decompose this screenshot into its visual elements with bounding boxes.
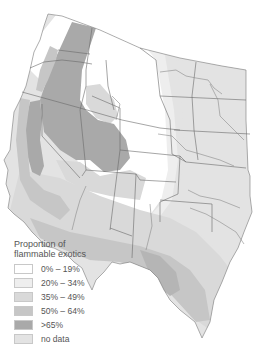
legend-swatch bbox=[14, 306, 33, 316]
legend-item-65-plus: >65% bbox=[14, 318, 114, 332]
legend-label: 50% – 64% bbox=[41, 306, 84, 316]
legend-swatch bbox=[14, 334, 33, 344]
legend-title-line2: flammable exotics bbox=[14, 249, 114, 259]
legend-label: no data bbox=[41, 334, 69, 344]
legend-swatch bbox=[14, 264, 33, 274]
legend-swatch bbox=[14, 292, 33, 302]
legend-item-35-49: 35% – 49% bbox=[14, 290, 114, 304]
legend-item-0-19: 0% – 19% bbox=[14, 262, 114, 276]
legend-item-no-data: no data bbox=[14, 332, 114, 346]
legend-label: 20% – 34% bbox=[41, 278, 84, 288]
legend-label: 0% – 19% bbox=[41, 264, 80, 274]
legend-item-20-34: 20% – 34% bbox=[14, 276, 114, 290]
legend-label: >65% bbox=[41, 320, 63, 330]
legend-label: 35% – 49% bbox=[41, 292, 84, 302]
legend-title: Proportion of flammable exotics bbox=[14, 239, 114, 259]
legend-swatch bbox=[14, 320, 33, 330]
legend-item-50-64: 50% – 64% bbox=[14, 304, 114, 318]
legend-swatch bbox=[14, 278, 33, 288]
legend: Proportion of flammable exotics 0% – 19%… bbox=[14, 239, 114, 346]
legend-title-line1: Proportion of bbox=[14, 239, 114, 249]
